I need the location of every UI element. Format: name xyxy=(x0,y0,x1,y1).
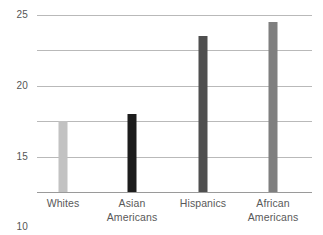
bar xyxy=(269,22,278,192)
x-axis-category-label-line: Americans xyxy=(248,210,299,224)
y-axis-tick-label: 15 xyxy=(16,152,28,162)
x-axis-category-label: AfricanAmericans xyxy=(248,196,299,224)
x-axis-category-label: Whites xyxy=(47,196,80,210)
x-axis-category-label: Hispanics xyxy=(180,196,226,210)
x-axis-category-label-line: African xyxy=(248,196,299,210)
x-axis-line: 0 xyxy=(37,192,312,193)
bar xyxy=(58,121,67,192)
gridline: 25 xyxy=(37,15,312,16)
plot-area: 0510152025 xyxy=(37,15,312,192)
x-axis-category-label-line: Hispanics xyxy=(180,196,226,210)
x-axis-category-label-line: Asian xyxy=(107,196,158,210)
bar xyxy=(198,36,207,192)
x-axis-category-label: AsianAmericans xyxy=(107,196,158,224)
y-axis-tick-label: 20 xyxy=(16,81,28,91)
x-axis-category-label-line: Americans xyxy=(107,210,158,224)
x-axis-category-label-line: Whites xyxy=(47,196,80,210)
x-axis-labels: WhitesAsianAmericansHispanicsAfricanAmer… xyxy=(37,196,312,234)
y-axis-tick-label: 25 xyxy=(16,10,28,20)
bar-chart: 0510152025 WhitesAsianAmericansHispanics… xyxy=(0,0,323,235)
bar xyxy=(128,114,137,192)
y-axis-tick-label: 10 xyxy=(16,222,28,232)
